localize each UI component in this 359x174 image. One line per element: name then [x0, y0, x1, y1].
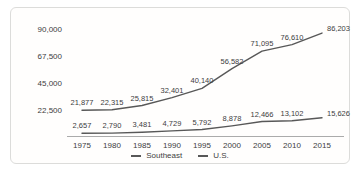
y-tick-label: 45,000 [38, 79, 63, 88]
x-tick-label: 1975 [73, 141, 91, 150]
y-tick-label: 67,500 [38, 52, 63, 61]
x-tick-label: 1990 [163, 141, 181, 150]
x-tick-label: 1995 [193, 141, 211, 150]
data-label: 3,481 [133, 120, 152, 129]
y-tick-label: 22,500 [38, 106, 63, 115]
chart-legend: SoutheastU.S. [10, 151, 350, 160]
data-label: 22,315 [101, 98, 124, 107]
legend-label: Southeast [146, 151, 182, 160]
data-label: 13,102 [281, 109, 304, 118]
data-label: 2,790 [103, 121, 122, 130]
legend-line-marker [198, 155, 208, 157]
data-label: 40,140 [191, 76, 214, 85]
x-tick-label: 2010 [283, 141, 301, 150]
data-label: 4,729 [163, 119, 182, 128]
data-label: 32,401 [161, 86, 184, 95]
line-chart: 22,50045,00067,50090,0001975198019851990… [0, 0, 359, 174]
data-label: 15,626 [327, 109, 350, 118]
x-tick-label: 2015 [313, 141, 331, 150]
x-tick-label: 2000 [223, 141, 241, 150]
legend-item-southeast: Southeast [131, 151, 182, 160]
x-tick-label: 2005 [253, 141, 271, 150]
data-label: 86,203 [327, 24, 350, 33]
data-label: 25,815 [131, 94, 154, 103]
data-label: 8,878 [223, 114, 242, 123]
legend-item-us: U.S. [198, 151, 229, 160]
data-label: 5,792 [193, 118, 212, 127]
data-label: 56,582 [221, 57, 244, 66]
y-tick-label: 90,000 [38, 25, 63, 34]
data-label: 2,657 [73, 121, 92, 130]
x-tick-label: 1985 [133, 141, 151, 150]
x-tick-label: 1980 [103, 141, 121, 150]
data-label: 21,877 [71, 98, 94, 107]
legend-line-marker [131, 155, 141, 157]
legend-label: U.S. [213, 151, 229, 160]
data-label: 76,610 [281, 33, 304, 42]
data-label: 71,095 [251, 39, 274, 48]
data-label: 12,466 [251, 110, 274, 119]
